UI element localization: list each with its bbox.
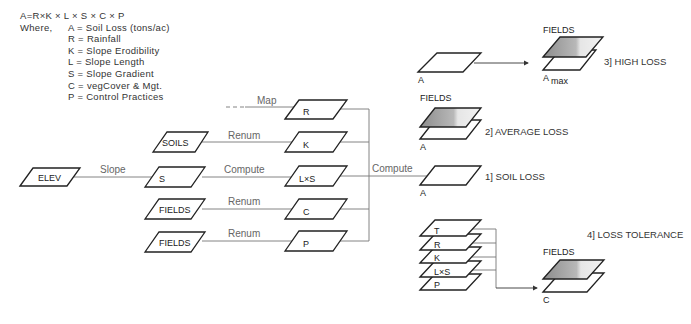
svg-text:A: A: [543, 73, 549, 83]
svg-text:max: max: [551, 76, 569, 86]
svg-text:FIELDS: FIELDS: [543, 25, 575, 35]
layer-r: R: [285, 100, 347, 119]
svg-text:FIELDS: FIELDS: [159, 238, 191, 248]
svg-text:FIELDS: FIELDS: [159, 205, 191, 215]
op-compute-ls: Compute: [224, 164, 265, 175]
svg-text:L×S: L×S: [299, 174, 315, 184]
op-renum-p: Renum: [228, 228, 260, 239]
output-average-loss: FIELDS A 2] AVERAGE LOSS: [420, 93, 568, 152]
loss-tolerance-title: 4] LOSS TOLERANCE: [587, 229, 683, 240]
op-slope: Slope: [100, 164, 126, 175]
output-loss-tolerance: P L×S K R T FIELDS C 4] LOSS TOLERANCE: [420, 220, 683, 305]
svg-text:A: A: [420, 188, 426, 198]
svg-text:R: R: [303, 107, 310, 117]
average-loss-title: 2] AVERAGE LOSS: [485, 126, 568, 137]
svg-text:C: C: [543, 295, 550, 305]
svg-text:K: K: [303, 140, 309, 150]
op-map: Map: [257, 95, 277, 106]
svg-text:A: A: [418, 75, 424, 85]
output-high-loss: A FIELDS A max 3] HIGH LOSS: [418, 25, 666, 86]
high-loss-title: 3] HIGH LOSS: [604, 56, 666, 67]
svg-text:P: P: [434, 280, 440, 290]
layer-s: S: [145, 167, 205, 187]
op-renum-c: Renum: [228, 196, 260, 207]
layer-c: C: [285, 199, 347, 219]
soil-loss-title: 1] SOIL LOSS: [485, 171, 545, 182]
svg-text:ELEV: ELEV: [38, 173, 61, 183]
flow-diagram: Map Renum Slope Compute Renum Renum Comp…: [0, 0, 691, 324]
svg-text:L×S: L×S: [434, 267, 450, 277]
layer-elev: ELEV: [20, 168, 80, 186]
svg-text:R: R: [434, 240, 441, 250]
layer-soils: SOILS: [153, 132, 208, 152]
svg-text:K: K: [434, 253, 440, 263]
layer-ls: L×S: [285, 166, 347, 186]
svg-text:SOILS: SOILS: [162, 138, 189, 148]
svg-text:P: P: [303, 239, 309, 249]
layer-p: P: [285, 231, 347, 251]
op-renum-soils: Renum: [228, 130, 260, 141]
svg-text:S: S: [159, 174, 165, 184]
svg-text:C: C: [303, 207, 310, 217]
layer-fields-p: FIELDS: [145, 232, 205, 252]
svg-text:FIELDS: FIELDS: [543, 247, 575, 257]
svg-text:A: A: [420, 142, 426, 152]
layer-k: K: [285, 132, 347, 152]
op-compute-a: Compute: [372, 163, 413, 174]
svg-text:FIELDS: FIELDS: [420, 93, 452, 103]
output-soil-loss: A 1] SOIL LOSS: [420, 166, 545, 198]
layer-stack: P L×S K R T: [420, 220, 481, 290]
layer-fields-c: FIELDS: [145, 199, 205, 219]
svg-text:T: T: [434, 226, 440, 236]
